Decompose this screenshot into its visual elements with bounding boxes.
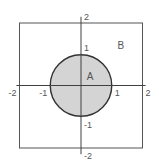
y-tick-label: 1 [84,43,89,53]
region-label-b: B [117,40,124,51]
y-tick-label: -1 [84,120,92,130]
x-tick-label: 2 [146,88,151,98]
set-diagram: -2-112 21-1-2 AB [0,0,159,167]
x-tick-label: 1 [115,88,120,98]
y-tick-label: -2 [84,151,92,161]
region-label-a: A [87,71,94,82]
x-tick-label: -2 [8,88,16,98]
y-tick-label: 2 [84,12,89,22]
x-tick-label: -1 [39,88,47,98]
